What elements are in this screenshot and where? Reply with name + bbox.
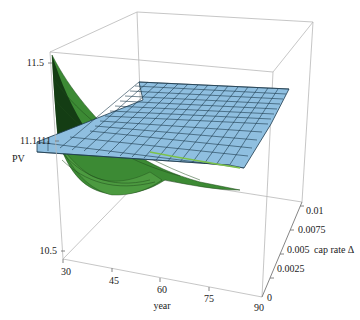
y-tick-0.005: 0.005: [287, 244, 310, 255]
z-tick-11.5: 11.5: [27, 57, 44, 68]
z-tick-11.1111: 11.1111: [20, 135, 51, 146]
x-tick-45: 45: [109, 275, 119, 286]
z-tick-10.5: 10.5: [40, 245, 58, 256]
y-tick-0.0025: 0.0025: [277, 263, 305, 274]
x-axis: 30 45 60 75 90 year: [61, 259, 264, 313]
surface-plot: 11.5 11.1111 10.5 PV 30 45 60 75 90 year…: [0, 0, 360, 320]
y-tick-0.0075: 0.0075: [298, 224, 326, 235]
y-tick-0.01: 0.01: [306, 205, 324, 216]
x-tick-90: 90: [254, 302, 264, 313]
y-axis: 0 0.0025 0.005 0.0075 0.01 cap rate Δ: [267, 205, 355, 303]
x-tick-60: 60: [157, 284, 167, 295]
x-axis-label: year: [153, 300, 171, 311]
z-axis-label: PV: [12, 153, 26, 164]
x-tick-75: 75: [204, 293, 214, 304]
y-axis-label: cap rate Δ: [314, 244, 355, 255]
x-tick-30: 30: [61, 266, 71, 277]
y-tick-0: 0: [267, 292, 272, 303]
